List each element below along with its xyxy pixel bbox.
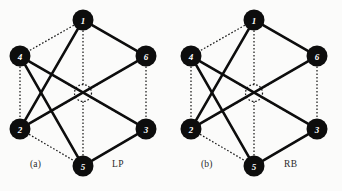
diagram-panel-b: 146235	[171, 0, 342, 191]
graph-node-3: 3	[136, 119, 157, 140]
panel-b-code-label: RB	[284, 159, 297, 169]
panel-a-code-label: LP	[112, 159, 124, 169]
graph-node-6: 6	[307, 46, 328, 67]
node-label-1: 1	[252, 16, 257, 26]
graph-node-2: 2	[181, 119, 202, 140]
solid-edge-5-4	[24, 63, 79, 158]
node-label-5: 5	[81, 162, 86, 172]
solid-edge-6-1	[90, 24, 138, 52]
graph-node-4: 4	[10, 46, 31, 67]
node-label-2: 2	[17, 125, 23, 135]
node-label-1: 1	[81, 16, 86, 26]
node-label-3: 3	[143, 125, 149, 135]
solid-edge-3-5	[261, 133, 309, 161]
figure-root: 146235 146235 (a) LP (b) RB	[0, 0, 342, 191]
hexagram-graph-b: 146235	[171, 0, 342, 191]
hexagram-graph-a: 146235	[0, 0, 171, 191]
node-label-2: 2	[188, 125, 194, 135]
graph-node-2: 2	[10, 119, 31, 140]
node-label-4: 4	[17, 52, 23, 62]
solid-edge-6-1	[261, 24, 309, 52]
graph-node-4: 4	[181, 46, 202, 67]
graph-node-1: 1	[244, 10, 265, 31]
graph-node-6: 6	[136, 46, 157, 67]
graph-node-5: 5	[73, 156, 94, 177]
node-label-6: 6	[315, 52, 320, 62]
graph-node-1: 1	[73, 10, 94, 31]
node-label-5: 5	[252, 162, 257, 172]
node-label-4: 4	[188, 52, 194, 62]
solid-edge-5-4	[195, 63, 250, 158]
panel-a-index-label: (a)	[30, 159, 41, 169]
diagram-panel-a: 146235	[0, 0, 171, 191]
panel-b-index-label: (b)	[201, 159, 213, 169]
node-label-6: 6	[144, 52, 149, 62]
graph-node-5: 5	[244, 156, 265, 177]
node-label-3: 3	[314, 125, 320, 135]
solid-edge-3-5	[90, 133, 138, 161]
graph-node-3: 3	[307, 119, 328, 140]
